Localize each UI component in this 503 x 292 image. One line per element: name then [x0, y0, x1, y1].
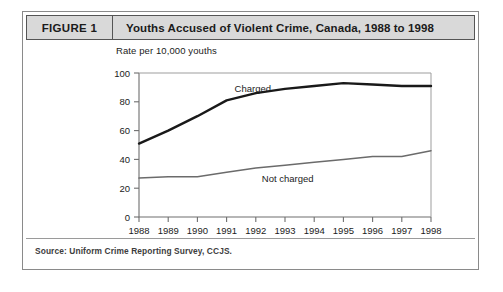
x-axis-tick-label: 1990: [187, 225, 208, 236]
y-axis-tick-label: 20: [119, 183, 130, 194]
figure-title: Youths Accused of Violent Crime, Canada,…: [113, 16, 474, 39]
x-axis-tick-label: 1991: [216, 225, 237, 236]
y-axis-tick-label: 100: [114, 68, 130, 79]
y-axis-tick-label: 0: [125, 212, 130, 223]
series-line-charged: [139, 83, 431, 143]
x-axis-tick-label: 1988: [128, 225, 149, 236]
footer-divider: [26, 238, 475, 239]
x-axis-tick-label: 1989: [158, 225, 179, 236]
figure-number-label: FIGURE 1: [27, 16, 113, 39]
chart-area: Rate per 10,000 youths 02040608010019881…: [26, 42, 475, 237]
series-label-not-charged: Not charged: [262, 173, 314, 184]
x-axis-tick-label: 1992: [245, 225, 266, 236]
figure-header: FIGURE 1 Youths Accused of Violent Crime…: [26, 15, 475, 40]
x-axis-tick-label: 1993: [274, 225, 295, 236]
y-axis-tick-label: 80: [119, 96, 130, 107]
x-axis-tick-label: 1996: [362, 225, 383, 236]
x-axis-tick-label: 1998: [420, 225, 441, 236]
x-axis-tick-label: 1995: [333, 225, 354, 236]
line-chart: 0204060801001988198919901991199219931994…: [26, 42, 475, 237]
y-axis-tick-label: 40: [119, 154, 130, 165]
y-axis-tick-label: 60: [119, 125, 130, 136]
x-axis-tick-label: 1997: [391, 225, 412, 236]
figure-card: FIGURE 1 Youths Accused of Violent Crime…: [22, 11, 479, 270]
series-label-charged: Charged: [235, 83, 271, 94]
source-note: Source: Uniform Crime Reporting Survey, …: [35, 246, 232, 256]
x-axis-tick-label: 1994: [304, 225, 325, 236]
